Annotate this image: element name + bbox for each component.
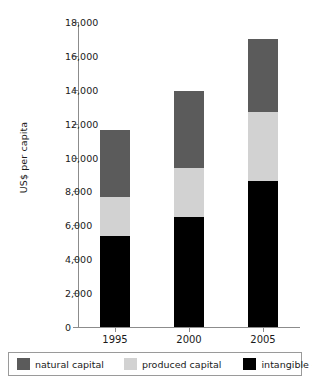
legend-label-natural-capital: natural capital [35, 359, 104, 370]
bar-2000[interactable] [174, 91, 204, 327]
y-axis-tick-label: 10,000 [65, 152, 68, 163]
y-axis-title: US$ per capita [18, 93, 29, 223]
bar-segment-natural-capital[interactable] [174, 91, 204, 167]
x-axis-tick-label: 1995 [102, 334, 127, 345]
y-axis-tick-label: 0 [65, 322, 68, 333]
y-axis-tick-label: 16,000 [65, 50, 68, 61]
legend-swatch-intangible-capital [243, 358, 256, 370]
y-axis-tick [73, 327, 78, 328]
legend-item-produced-capital: produced capital [124, 358, 222, 370]
legend-item-intangible-capital: intangible capital [243, 358, 312, 370]
bar-segment-natural-capital[interactable] [248, 39, 278, 112]
plot-area: 18,00016,00014,00012,00010,0008,0006,000… [78, 20, 300, 329]
y-axis-tick-label: 14,000 [65, 84, 68, 95]
bar-segment-natural-capital[interactable] [100, 130, 130, 196]
bar-segment-produced-capital[interactable] [100, 197, 130, 236]
bar-2005[interactable] [248, 39, 278, 327]
legend-label-produced-capital: produced capital [142, 359, 222, 370]
bar-1995[interactable] [100, 130, 130, 327]
legend-label-intangible-capital: intangible capital [261, 359, 312, 370]
chart-legend: natural capital produced capital intangi… [8, 352, 302, 376]
y-axis-tick-label: 12,000 [65, 118, 68, 129]
x-axis-tick-label: 2000 [176, 334, 201, 345]
stacked-bar-chart: US$ per capita 18,00016,00014,00012,0001… [0, 0, 312, 387]
bar-segment-produced-capital[interactable] [248, 112, 278, 181]
y-axis-tick-label: 4,000 [65, 254, 68, 265]
bar-segment-intangible-capital[interactable] [248, 181, 278, 327]
y-axis-tick-label: 8,000 [65, 186, 68, 197]
legend-item-natural-capital: natural capital [17, 358, 104, 370]
y-axis-tick-label: 2,000 [65, 288, 68, 299]
y-axis-tick-label: 6,000 [65, 220, 68, 231]
legend-swatch-natural-capital [17, 358, 30, 370]
legend-swatch-produced-capital [124, 358, 137, 370]
bar-segment-produced-capital[interactable] [174, 168, 204, 217]
y-axis-tick-label: 18,000 [65, 17, 68, 28]
x-axis-tick-label: 2005 [250, 334, 275, 345]
bar-segment-intangible-capital[interactable] [100, 236, 130, 328]
y-axis-line [78, 22, 79, 327]
x-axis-tick [189, 327, 190, 332]
x-axis-tick [115, 327, 116, 332]
x-axis-tick [263, 327, 264, 332]
bar-segment-intangible-capital[interactable] [174, 217, 204, 327]
